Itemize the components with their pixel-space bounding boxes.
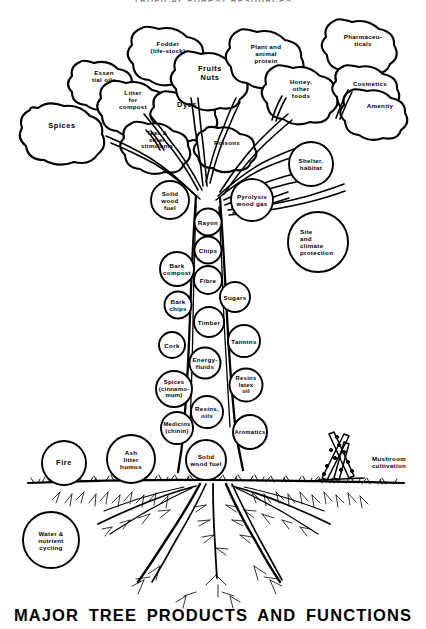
bottom-title: MAJOR TREE PRODUCTS AND FUNCTIONS [0, 606, 426, 625]
tree-illustration [0, 0, 426, 629]
diagram-canvas: TROPICAL FOREST RESOURCES [0, 0, 426, 629]
mushroom-log-stack [318, 432, 364, 480]
top-title: TROPICAL FOREST RESOURCES [0, 0, 426, 2]
annotation-bubble-group [23, 142, 348, 568]
root-system [52, 484, 368, 608]
